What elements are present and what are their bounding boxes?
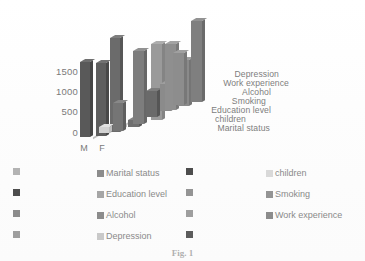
x-tick-F: F [96,143,108,153]
legend-swatch-icon [266,212,273,219]
legend-item[interactable] [186,231,193,238]
legend-item[interactable] [186,189,193,196]
legend-swatch-icon [97,170,104,177]
legend-label: Depression [106,231,152,241]
legend-label: children [275,168,307,178]
legend-item-smoking[interactable]: Smoking [266,189,310,199]
legend-item[interactable] [186,210,193,217]
legend-item-work-experience[interactable]: Work experience [266,210,342,220]
bar-smoking-M [133,51,144,124]
bar-depression-M [173,53,184,105]
legend-item-depression[interactable]: Depression [97,231,152,241]
legend-swatch-icon [186,168,193,175]
legend-swatch-icon [266,191,273,198]
legend-item-education-level[interactable]: Education level [97,189,167,199]
legend-item[interactable] [13,168,22,175]
legend-item[interactable] [186,168,193,175]
legend-item[interactable] [13,231,22,238]
chart-legend: Marital status Education level Alcohol D… [0,163,365,245]
legend-item-children[interactable]: children [266,168,307,178]
legend-swatch-icon [97,191,104,198]
y-tick-1500: 1500 [46,66,78,77]
y-tick-0: 0 [46,127,78,138]
legend-label: Alcohol [106,210,136,220]
legend-swatch-icon [13,189,20,196]
figure-caption-region: Fig. 1 [0,243,365,261]
legend-swatch-icon [186,231,193,238]
bar-depression-F [191,21,202,102]
figure-caption: Fig. 1 [0,248,365,258]
legend-swatch-icon [186,210,193,217]
legend-label: Smoking [275,189,310,199]
legend-item-marital-status[interactable]: Marital status [97,168,160,178]
bar-chart-3d: 1500 1000 500 0 [0,0,365,163]
legend-item[interactable] [13,189,22,196]
legend-swatch-icon [13,168,20,175]
x-tick-M: M [78,143,90,153]
legend-swatch-icon [13,210,20,217]
bar-education-level-M [113,103,123,131]
legend-label: Education level [106,189,167,199]
bar-children-F [99,127,109,133]
legend-label: Work experience [275,210,342,220]
legend-label: Marital status [106,168,160,178]
legend-item[interactable] [13,210,22,217]
legend-swatch-icon [266,170,273,177]
bar-alcohol-M [146,91,157,117]
legend-swatch-icon [97,233,104,240]
legend-swatch-icon [13,231,20,238]
y-tick-500: 500 [46,106,78,117]
y-tick-1000: 1000 [46,86,78,97]
z-label-marital-status: Marital status [217,123,270,133]
legend-swatch-icon [97,212,104,219]
legend-item-alcohol[interactable]: Alcohol [97,210,136,220]
bar-marital-status-M [80,62,90,137]
legend-swatch-icon [186,189,193,196]
